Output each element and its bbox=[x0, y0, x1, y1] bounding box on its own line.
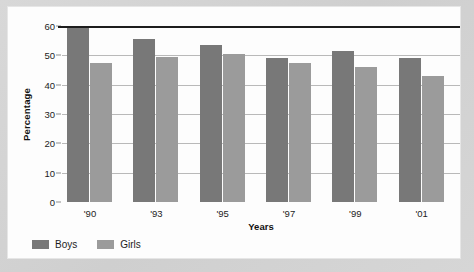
legend: BoysGirls bbox=[32, 239, 141, 250]
y-tick-label: 10 bbox=[44, 167, 55, 178]
x-tick-label: '90 bbox=[84, 208, 96, 219]
bar-group: '90 bbox=[62, 26, 128, 202]
bar-girls[interactable] bbox=[355, 67, 377, 202]
bar-groups: '90'93'95'97'99'01 bbox=[62, 26, 460, 202]
y-tick-label: 20 bbox=[44, 138, 55, 149]
y-tick-mark bbox=[56, 84, 61, 85]
x-axis-line bbox=[58, 26, 460, 28]
legend-item-girls[interactable]: Girls bbox=[97, 239, 141, 250]
bar-group: '97 bbox=[261, 26, 327, 202]
y-tick-label: 40 bbox=[44, 79, 55, 90]
legend-swatch-girls bbox=[97, 240, 114, 249]
y-tick-label: 50 bbox=[44, 50, 55, 61]
bar-boys[interactable] bbox=[200, 45, 222, 202]
x-axis-title: Years bbox=[62, 221, 460, 232]
bar-boys[interactable] bbox=[133, 39, 155, 202]
bar-boys[interactable] bbox=[266, 58, 288, 202]
bar-girls[interactable] bbox=[289, 63, 311, 202]
bar-group: '93 bbox=[128, 26, 194, 202]
chart-card: Percentage 0102030405060 '90'93'95'97'99… bbox=[8, 7, 460, 258]
bar-boys[interactable] bbox=[399, 58, 421, 202]
legend-label: Girls bbox=[120, 239, 141, 250]
legend-label: Boys bbox=[55, 239, 77, 250]
bar-girls[interactable] bbox=[223, 54, 245, 202]
legend-swatch-boys bbox=[32, 240, 49, 249]
bar-girls[interactable] bbox=[156, 57, 178, 202]
y-tick-label: 30 bbox=[44, 109, 55, 120]
x-tick-label: '95 bbox=[216, 208, 228, 219]
y-tick-mark bbox=[56, 143, 61, 144]
x-tick-label: '97 bbox=[283, 208, 295, 219]
y-tick-mark bbox=[56, 202, 61, 203]
x-tick-label: '93 bbox=[150, 208, 162, 219]
bar-girls[interactable] bbox=[422, 76, 444, 202]
y-tick-mark bbox=[56, 172, 61, 173]
x-tick-label: '01 bbox=[415, 208, 427, 219]
bar-group: '99 bbox=[327, 26, 393, 202]
legend-item-boys[interactable]: Boys bbox=[32, 239, 77, 250]
y-tick-mark bbox=[56, 55, 61, 56]
y-tick-mark bbox=[56, 114, 61, 115]
bar-boys[interactable] bbox=[332, 51, 354, 202]
chart-screenshot: Percentage 0102030405060 '90'93'95'97'99… bbox=[0, 0, 474, 272]
y-tick-label: 0 bbox=[50, 197, 55, 208]
bar-boys[interactable] bbox=[67, 26, 89, 202]
y-axis-title-text: Percentage bbox=[22, 87, 33, 140]
bar-girls[interactable] bbox=[90, 63, 112, 202]
bar-group: '95 bbox=[195, 26, 261, 202]
y-axis-title: Percentage bbox=[20, 26, 34, 202]
y-tick-label: 60 bbox=[44, 21, 55, 32]
x-tick-label: '99 bbox=[349, 208, 361, 219]
bar-group: '01 bbox=[394, 26, 460, 202]
plot-area: 0102030405060 '90'93'95'97'99'01 bbox=[62, 26, 460, 202]
